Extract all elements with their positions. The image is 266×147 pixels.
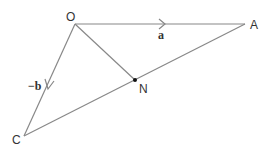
vector-diagram: O A C N a −b <box>0 0 266 147</box>
label-vector-neg-b: −b <box>28 79 42 93</box>
label-O: O <box>66 10 75 24</box>
label-vector-a: a <box>158 28 164 42</box>
label-C: C <box>12 133 21 147</box>
label-N: N <box>139 82 148 96</box>
point-N-dot <box>133 78 137 82</box>
segment-ON <box>75 24 135 80</box>
label-A: A <box>250 18 258 32</box>
